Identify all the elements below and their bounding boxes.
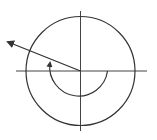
terminal-ray (8, 42, 81, 71)
angle-diagram (0, 0, 157, 140)
angle-arc (50, 63, 108, 96)
